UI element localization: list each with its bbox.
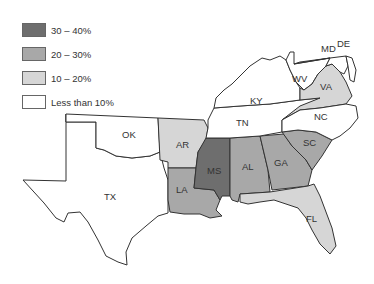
label-de: DE [337,38,350,49]
label-la: LA [176,184,188,195]
label-md: MD [321,43,336,54]
state-de [346,56,356,82]
label-wv: WV [292,73,308,84]
label-tx: TX [104,191,117,202]
state-fl [240,184,336,254]
southern-states-map: TX OK AR LA MS AL GA SC FL TN KY NC VA W… [0,0,374,284]
label-fl: FL [306,213,317,224]
label-ms: MS [207,165,221,176]
label-ky: KY [250,95,263,106]
label-tn: TN [236,117,249,128]
label-ga: GA [274,157,288,168]
label-ok: OK [122,129,136,140]
label-ar: AR [176,139,189,150]
label-sc: SC [303,137,316,148]
label-nc: NC [314,111,328,122]
label-al: AL [242,161,254,172]
label-va: VA [320,81,333,92]
